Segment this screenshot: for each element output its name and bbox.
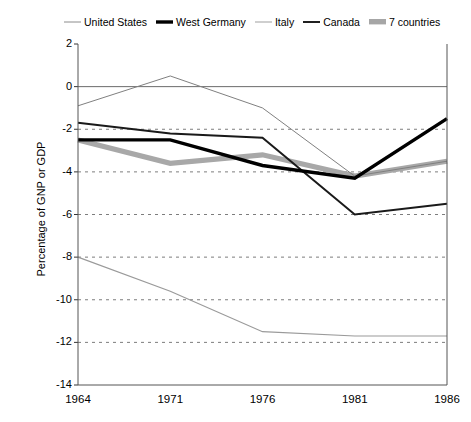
y-tick-label: -8: [38, 251, 72, 262]
y-tick-label: -10: [38, 294, 72, 305]
x-tick-label: 1981: [325, 393, 385, 405]
y-tick-marks: [74, 44, 78, 385]
x-tick-label: 1964: [48, 393, 108, 405]
x-tick-label: 1971: [140, 393, 200, 405]
y-tick-label: 0: [38, 81, 72, 92]
y-tick-label: 2: [38, 38, 72, 49]
series-lines: [78, 76, 447, 336]
y-tick-label: -14: [38, 379, 72, 390]
y-tick-label: -12: [38, 336, 72, 347]
x-tick-label: 1986: [417, 393, 471, 405]
y-tick-label: -2: [38, 123, 72, 134]
series-line-united-states: [78, 76, 447, 176]
gridlines: [78, 44, 447, 385]
series-line-italy: [78, 257, 447, 336]
y-tick-label: -4: [38, 166, 72, 177]
series-line-7-countries: [78, 140, 447, 176]
chart-container: United States West Germany Italy: [0, 0, 471, 422]
x-tick-label: 1976: [233, 393, 293, 405]
y-tick-label: -6: [38, 209, 72, 220]
